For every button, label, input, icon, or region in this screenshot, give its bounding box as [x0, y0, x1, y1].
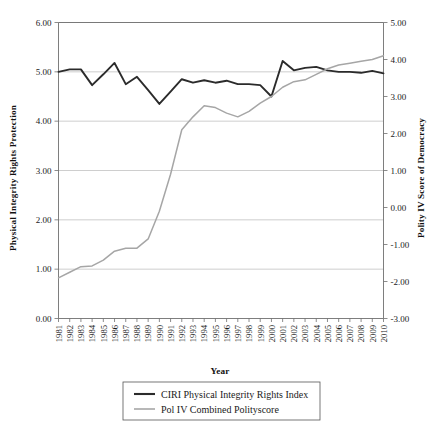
x-tick-label: 1997	[233, 324, 243, 342]
x-tick-label: 1983	[76, 325, 86, 342]
y2-tick-label: 1.00	[391, 166, 407, 176]
legend: CIRI Physical Integrity Rights Index Pol…	[123, 382, 320, 420]
x-tick-label: 1998	[244, 325, 254, 342]
x-tick-label: 1985	[99, 325, 109, 342]
x-tick-label: 1981	[54, 325, 64, 342]
y-tick-label: 6.00	[36, 18, 52, 28]
x-tick-label: 1991	[166, 325, 176, 342]
x-tick-label: 2002	[289, 325, 299, 342]
series-line-ciri	[59, 61, 384, 104]
x-tick-label: 2004	[312, 324, 322, 342]
x-axis-tick-labels: 1981198219831984198519861987198819891990…	[54, 324, 389, 342]
x-tick-label: 1990	[155, 325, 165, 342]
y2-axis-title: Polity IV Score of Democracy	[416, 118, 426, 238]
left-axis-tick-labels: 0.001.002.003.004.005.006.00	[36, 18, 52, 324]
y2-tick-label: 0.00	[391, 203, 407, 213]
y-tick-label: 0.00	[36, 314, 52, 324]
y2-tick-label: 2.00	[391, 129, 407, 139]
y2-tick-label: 3.00	[391, 92, 407, 102]
y2-tick-label: -1.00	[391, 240, 410, 250]
legend-label-ciri: CIRI Physical Integrity Rights Index	[161, 389, 308, 400]
x-tick-label: 1986	[110, 324, 120, 342]
x-tick-label: 1987	[121, 324, 131, 342]
y-axis-title: Physical Integrity Rights Protection	[8, 105, 18, 251]
x-tick-label: 2003	[300, 325, 310, 342]
x-tick-label: 1996	[222, 324, 232, 342]
x-tick-label: 2000	[267, 325, 277, 342]
x-tick-label: 2001	[278, 325, 288, 342]
y2-tick-label: -3.00	[391, 314, 410, 324]
x-tick-label: 1984	[87, 324, 97, 342]
right-axis-ticks	[384, 23, 388, 319]
chart-figure: 0.001.002.003.004.005.006.00 -3.00-2.00-…	[0, 0, 437, 426]
y2-tick-label: 5.00	[391, 18, 407, 28]
x-tick-label: 1992	[177, 325, 187, 342]
x-tick-label: 2006	[334, 324, 344, 342]
x-tick-label: 1999	[256, 325, 266, 342]
x-tick-label: 1994	[199, 324, 209, 342]
x-axis-title: Year	[211, 366, 230, 376]
gridlines-group	[59, 23, 384, 270]
line-chart-svg: 0.001.002.003.004.005.006.00 -3.00-2.00-…	[0, 0, 437, 426]
x-tick-label: 2005	[323, 325, 333, 342]
x-tick-label: 1982	[65, 325, 75, 342]
y-tick-label: 3.00	[36, 166, 52, 176]
x-tick-label: 2010	[379, 325, 389, 342]
x-tick-label: 2009	[368, 325, 378, 342]
x-tick-label: 1989	[143, 325, 153, 342]
x-tick-label: 1995	[211, 325, 221, 342]
y-tick-label: 4.00	[36, 116, 52, 126]
data-series-group	[59, 56, 384, 278]
y2-tick-label: 4.00	[391, 55, 407, 65]
x-tick-label: 2007	[345, 324, 355, 342]
left-axis-ticks	[55, 23, 59, 319]
y2-tick-label: -2.00	[391, 277, 410, 287]
series-line-polity	[59, 56, 384, 278]
right-axis-tick-labels: -3.00-2.00-1.000.001.002.003.004.005.00	[391, 18, 410, 324]
y-tick-label: 2.00	[36, 215, 52, 225]
x-tick-label: 1993	[188, 325, 198, 342]
x-tick-label: 2008	[356, 325, 366, 342]
x-axis-ticks	[59, 319, 384, 323]
legend-label-polity: Pol IV Combined Polityscore	[161, 404, 279, 415]
x-tick-label: 1988	[132, 325, 142, 342]
y-tick-label: 5.00	[36, 67, 52, 77]
y-tick-label: 1.00	[36, 264, 52, 274]
